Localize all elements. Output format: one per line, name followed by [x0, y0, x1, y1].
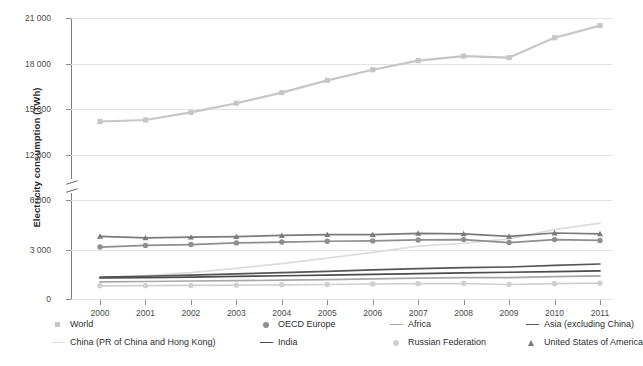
- gridline: [71, 299, 612, 300]
- legend-label: United States of America: [544, 337, 643, 347]
- y-tick-label: 6 000: [0, 195, 51, 205]
- y-tick-label: 15 000: [0, 104, 51, 114]
- data-point-circle: [461, 281, 466, 286]
- y-tick-label: 0: [0, 294, 51, 304]
- legend-item-africa[interactable]: Africa: [390, 319, 431, 329]
- x-tick-mark: [509, 300, 510, 305]
- data-point-square: [552, 35, 557, 40]
- plot-area: 03 0006 00012 00015 00018 00021 000 2000…: [71, 12, 612, 294]
- x-tick-label: 2006: [350, 308, 396, 318]
- legend-label: OECD Europe: [278, 319, 336, 329]
- data-point-circle: [279, 282, 284, 287]
- legend-marker-triangle-icon: [526, 337, 540, 347]
- data-point-circle: [325, 239, 330, 244]
- x-tick-label: 2010: [532, 308, 578, 318]
- series-china-pr-of-china-and-hong-kong: [100, 223, 600, 278]
- x-tick-mark: [145, 300, 146, 305]
- x-tick-label: 2008: [441, 308, 487, 318]
- series-layer: [71, 12, 612, 294]
- data-point-square: [370, 67, 375, 72]
- legend-label: China (PR of China and Hong Kong): [70, 337, 216, 347]
- legend-marker-line-icon: [52, 337, 66, 347]
- legend-item-asia-excluding-china[interactable]: Asia (excluding China): [526, 319, 634, 329]
- legend-item-united-states-of-america[interactable]: United States of America: [526, 337, 643, 347]
- x-tick-mark: [236, 300, 237, 305]
- data-point-circle: [97, 244, 102, 249]
- series-line: [100, 240, 600, 247]
- series-line: [100, 26, 600, 122]
- chart-legend: WorldOECD EuropeAfricaAsia (excluding Ch…: [52, 319, 618, 359]
- legend-marker-line-icon: [390, 319, 404, 329]
- legend-item-china-pr-of-china-and-hong-kong[interactable]: China (PR of China and Hong Kong): [52, 337, 216, 347]
- data-point-circle: [506, 282, 511, 287]
- series-world: [97, 23, 602, 124]
- legend-label: World: [70, 319, 93, 329]
- data-point-circle: [188, 283, 193, 288]
- data-point-square: [325, 78, 330, 83]
- legend-label: Asia (excluding China): [544, 319, 634, 329]
- legend-marker-line-icon: [526, 319, 540, 329]
- x-tick-label: 2001: [122, 308, 168, 318]
- data-point-circle: [370, 238, 375, 243]
- data-point-circle: [234, 282, 239, 287]
- y-tick-label: 18 000: [0, 59, 51, 69]
- series-line: [100, 233, 600, 238]
- x-tick-mark: [418, 300, 419, 305]
- x-tick-label: 2011: [577, 308, 623, 318]
- legend-item-world[interactable]: World: [52, 319, 93, 329]
- legend-item-russian-federation[interactable]: Russian Federation: [390, 337, 486, 347]
- data-point-circle: [370, 281, 375, 286]
- x-tick-label: 2005: [304, 308, 350, 318]
- data-point-circle: [325, 282, 330, 287]
- x-tick-mark: [373, 300, 374, 305]
- y-tick-mark: [66, 299, 71, 300]
- x-tick-mark: [600, 300, 601, 305]
- x-tick-mark: [327, 300, 328, 305]
- data-point-square: [143, 117, 148, 122]
- data-point-circle: [597, 280, 602, 285]
- x-tick-label: 2000: [77, 308, 123, 318]
- legend-marker-line-icon: [260, 337, 274, 347]
- data-point-circle: [415, 237, 420, 242]
- legend-marker-square-icon: [52, 319, 66, 329]
- data-point-circle: [279, 239, 284, 244]
- data-point-circle: [97, 283, 102, 288]
- data-point-circle: [552, 281, 557, 286]
- y-tick-label: 3 000: [0, 245, 51, 255]
- x-tick-label: 2004: [259, 308, 305, 318]
- data-point-square: [416, 58, 421, 63]
- data-point-circle: [234, 240, 239, 245]
- data-point-square: [597, 23, 602, 28]
- data-point-square: [188, 110, 193, 115]
- legend-item-india[interactable]: India: [260, 337, 298, 347]
- legend-label: Africa: [408, 319, 431, 329]
- x-tick-mark: [282, 300, 283, 305]
- data-point-circle: [597, 238, 602, 243]
- data-point-square: [97, 119, 102, 124]
- x-tick-label: 2009: [486, 308, 532, 318]
- data-point-square: [461, 53, 466, 58]
- data-point-square: [234, 101, 239, 106]
- data-point-circle: [143, 283, 148, 288]
- legend-item-oecd-europe[interactable]: OECD Europe: [260, 319, 336, 329]
- x-tick-label: 2002: [168, 308, 214, 318]
- y-tick-label: 21 000: [0, 13, 51, 23]
- x-tick-mark: [555, 300, 556, 305]
- data-point-circle: [143, 243, 148, 248]
- x-tick-mark: [100, 300, 101, 305]
- series-line: [100, 283, 600, 286]
- data-point-circle: [506, 240, 511, 245]
- data-point-circle: [415, 281, 420, 286]
- data-point-circle: [552, 237, 557, 242]
- x-tick-mark: [191, 300, 192, 305]
- x-tick-label: 2003: [213, 308, 259, 318]
- x-tick-mark: [464, 300, 465, 305]
- data-point-circle: [461, 237, 466, 242]
- series-united-states-of-america: [97, 230, 603, 240]
- legend-marker-circle-icon: [260, 319, 274, 329]
- series-oecd-europe: [97, 237, 602, 250]
- y-tick-label: 12 000: [0, 150, 51, 160]
- data-point-circle: [188, 242, 193, 247]
- series-line: [100, 223, 600, 278]
